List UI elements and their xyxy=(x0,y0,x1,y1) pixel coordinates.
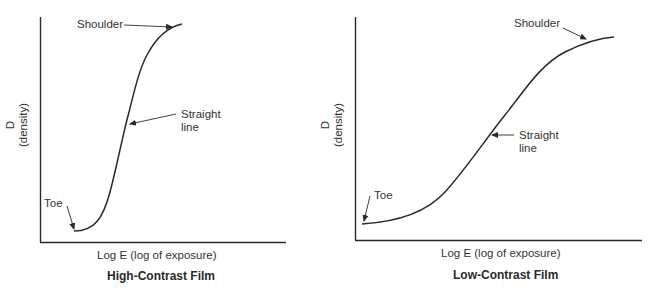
y-axis-label: D (density) xyxy=(4,100,30,150)
shoulder-label: Shoulder xyxy=(77,18,123,31)
y-axis-label-line2: (density) xyxy=(17,100,30,150)
straight-line-label-2: line xyxy=(181,121,199,134)
low-contrast-curve xyxy=(362,37,614,224)
chart-title: High-Contrast Film xyxy=(107,269,215,283)
x-axis-label: Log E (log of exposure) xyxy=(97,249,217,262)
straight-line-arrow xyxy=(130,114,176,124)
shoulder-arrow xyxy=(563,28,586,39)
shoulder-label: Shoulder xyxy=(514,17,560,30)
toe-label: Toe xyxy=(374,189,393,202)
shoulder-arrow xyxy=(124,25,172,27)
y-axis-label-line2: (density) xyxy=(332,100,345,150)
straight-line-label-1: Straight xyxy=(519,129,559,142)
high-contrast-axes xyxy=(40,17,286,243)
toe-label: Toe xyxy=(44,197,63,210)
y-axis-label-line1: D xyxy=(319,100,332,150)
x-axis-label: Log E (log of exposure) xyxy=(441,247,561,260)
y-axis-label: D (density) xyxy=(319,100,345,150)
high-contrast-curve xyxy=(74,24,182,231)
y-axis-label-line1: D xyxy=(4,100,17,150)
low-contrast-axes xyxy=(355,17,642,241)
toe-arrow xyxy=(67,206,74,229)
toe-arrow xyxy=(364,196,370,221)
straight-line-label-2: line xyxy=(519,142,537,155)
straight-line-label-1: Straight xyxy=(181,108,221,121)
chart-title: Low-Contrast Film xyxy=(453,268,558,282)
